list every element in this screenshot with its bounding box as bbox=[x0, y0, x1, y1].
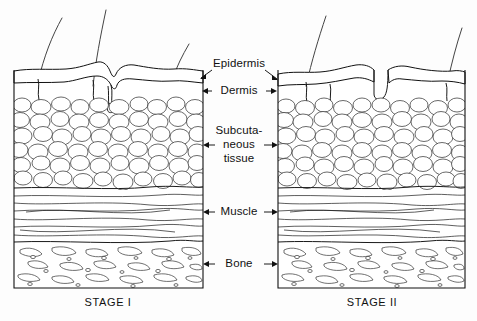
bone-arrow-right bbox=[264, 261, 278, 267]
label-epidermis: Epidermis bbox=[206, 57, 272, 71]
caption-stage-1: STAGE I bbox=[58, 296, 158, 308]
dermis-arrow-right bbox=[266, 88, 277, 94]
panel-stage-1 bbox=[10, 10, 208, 288]
label-subcutaneous-line1: Subcuta- bbox=[206, 124, 272, 138]
label-muscle: Muscle bbox=[212, 205, 266, 219]
label-bone: Bone bbox=[212, 257, 266, 271]
label-subcutaneous-line2: neous bbox=[206, 138, 272, 152]
panel-stage-2 bbox=[274, 16, 469, 288]
muscle-arrow-right bbox=[264, 209, 278, 215]
label-leader-arrows bbox=[200, 70, 278, 267]
label-dermis: Dermis bbox=[212, 84, 266, 98]
caption-stage-2: STAGE II bbox=[322, 296, 422, 308]
label-subcutaneous-line3: tissue bbox=[206, 152, 272, 166]
epidermis-arrow-right bbox=[265, 70, 278, 80]
pressure-ulcer-figure: Epidermis Dermis Subcuta- neous tissue M… bbox=[0, 0, 477, 321]
